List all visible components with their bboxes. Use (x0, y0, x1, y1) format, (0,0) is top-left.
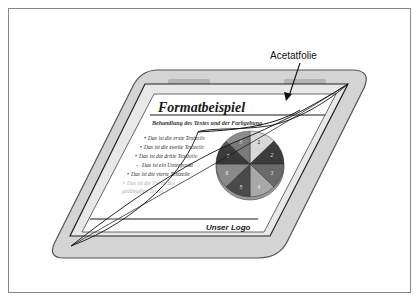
bullet-marker: - (136, 162, 138, 168)
pie-label: 2 (270, 152, 274, 158)
acetate-foil-diagram: Formatbeispiel Behandlung des Textes und… (0, 0, 418, 302)
bullet-marker: • (123, 180, 125, 186)
bullet-marker: • (140, 144, 142, 150)
pie-label: 6 (226, 170, 229, 176)
bullet-marker: • (144, 135, 146, 141)
footer-logo: Unser Logo (206, 223, 251, 232)
pie-label: 1 (258, 139, 261, 145)
foil-label: Acetatfolie (270, 50, 317, 61)
bullet-text: Das ist die vierte Textzeile (130, 171, 190, 177)
bullet-marker: • (135, 153, 137, 159)
slide-subtitle: Behandlung des Textes und der Farbgebung (151, 120, 262, 126)
slide-title: Formatbeispiel (157, 100, 245, 115)
bullet-marker: • (127, 171, 129, 177)
pie-label: 5 (240, 184, 243, 190)
pie-label: 4 (258, 184, 261, 190)
pie-label: 3 (271, 170, 274, 176)
